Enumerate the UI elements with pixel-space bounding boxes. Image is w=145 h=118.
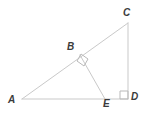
right-angle-mark-group [77,54,128,99]
segment-AC [22,23,128,99]
vertex-label-a: A [8,95,15,105]
segment-BE [80,55,105,99]
vertex-label-b: B [67,42,74,52]
segment-group [22,23,128,99]
vertex-label-c: C [123,8,130,18]
geometry-diagram: A B C D E [0,0,145,118]
right-angle-mark-at-D [120,91,128,99]
vertex-label-e: E [103,99,110,109]
vertex-label-d: D [131,92,138,102]
